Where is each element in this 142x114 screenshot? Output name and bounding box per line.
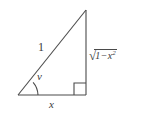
minus-operator: − [100, 50, 108, 61]
radical-expression: √1−x2 [89, 48, 117, 62]
triangle-hypotenuse-line [18, 10, 86, 95]
hypotenuse-label: 1 [38, 41, 44, 53]
angle-arc-icon [33, 82, 38, 95]
adjacent-side-label: x [49, 99, 54, 110]
right-triangle-figure: 1 √1−x2 x v [0, 0, 142, 114]
radicand-exponent: 2 [112, 49, 116, 57]
angle-label: v [37, 71, 42, 82]
radicand-group: 1−x2 [94, 49, 117, 61]
right-angle-marker-icon [74, 83, 86, 95]
opposite-side-label: √1−x2 [89, 48, 117, 62]
triangle-drawing [0, 0, 142, 114]
